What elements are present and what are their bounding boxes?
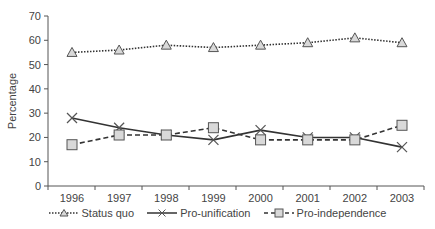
- x-tick-label: 1999: [201, 192, 225, 204]
- chart-legend: Status quo Pro-unification Pro-independe…: [0, 207, 435, 220]
- triangle-marker: [303, 38, 313, 47]
- square-marker: [350, 135, 360, 145]
- y-axis-title: Percentage: [6, 73, 18, 129]
- y-tick-label: 20: [29, 131, 41, 143]
- x-tick-label: 2002: [343, 192, 367, 204]
- y-tick-label: 40: [29, 83, 41, 95]
- square-marker: [397, 120, 407, 130]
- x-tick-label: 1997: [107, 192, 131, 204]
- legend-item-pro-unification: Pro-unification: [147, 207, 250, 219]
- legend-label-pro-independence: Pro-independence: [297, 207, 387, 219]
- square-marker: [114, 130, 124, 140]
- square-marker: [208, 123, 218, 133]
- legend-item-pro-independence: Pro-independence: [264, 207, 387, 219]
- legend-label-status-quo: Status quo: [82, 207, 135, 219]
- triangle-marker: [350, 33, 360, 42]
- x-solid-icon: [147, 208, 177, 218]
- square-marker: [67, 140, 77, 150]
- x-tick-label: 1998: [154, 192, 178, 204]
- square-dashed-icon: [264, 208, 294, 218]
- legend-label-pro-unification: Pro-unification: [180, 207, 250, 219]
- legend-item-status-quo: Status quo: [49, 207, 135, 219]
- y-tick-label: 60: [29, 34, 41, 46]
- chart-plot-area: 010203040506070Percentage199619971998199…: [0, 0, 435, 205]
- y-tick-label: 70: [29, 10, 41, 22]
- y-tick-label: 50: [29, 59, 41, 71]
- x-tick-label: 2003: [390, 192, 414, 204]
- y-tick-label: 30: [29, 107, 41, 119]
- y-tick-label: 10: [29, 156, 41, 168]
- square-marker: [161, 130, 171, 140]
- x-tick-label: 2000: [248, 192, 272, 204]
- triangle-dotted-icon: [49, 208, 79, 218]
- square-marker: [303, 135, 313, 145]
- x-tick-label: 2001: [295, 192, 319, 204]
- x-tick-label: 1996: [60, 192, 84, 204]
- triangle-marker: [114, 45, 124, 54]
- y-tick-label: 0: [35, 180, 41, 192]
- square-marker: [256, 135, 266, 145]
- triangle-marker: [161, 40, 171, 49]
- line-chart: 010203040506070Percentage199619971998199…: [0, 0, 435, 229]
